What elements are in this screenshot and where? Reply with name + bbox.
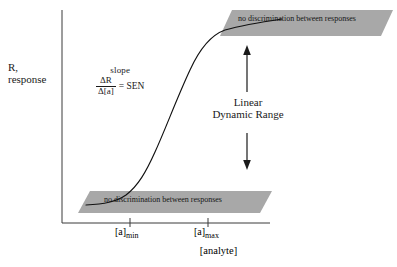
x-tick-label-a-max-base: [a] — [194, 226, 205, 237]
x-tick-label-a-max-sub: max — [205, 231, 219, 240]
slope-numerator: ΔR — [98, 76, 114, 86]
slope-equals-sen: = SEN — [119, 82, 145, 92]
slope-denominator: Δ[a] — [96, 86, 116, 97]
sensitivity-equation: ΔR Δ[a] = SEN — [96, 76, 144, 96]
x-tick-label-a-max: [a]max — [194, 226, 219, 237]
slope-fraction: ΔR Δ[a] — [96, 76, 116, 96]
y-axis-label: R, response — [8, 62, 47, 85]
linear-dynamic-range-label: Linear Dynamic Range — [204, 97, 292, 120]
ldr-label-line1: Linear — [204, 97, 292, 109]
slope-annotation: slope ΔR Δ[a] = SEN — [96, 66, 144, 97]
x-tick-label-a-min-sub: min — [126, 231, 138, 240]
upper-band-caption: no discrimination between responses — [238, 14, 356, 23]
x-tick-label-a-min: [a]min — [115, 226, 139, 237]
y-axis-label-line1: R, — [8, 62, 47, 74]
y-axis-label-line2: response — [8, 74, 47, 86]
lower-band-caption: no discrimination between responses — [104, 195, 222, 204]
x-axis-label: [analyte] — [0, 245, 397, 256]
x-tick-label-a-min-base: [a] — [115, 226, 126, 237]
slope-caption: slope — [96, 66, 144, 75]
ldr-label-line2: Dynamic Range — [204, 109, 292, 121]
calibration-curve-figure: R, response slope ΔR Δ[a] = SEN Linear D… — [0, 0, 397, 267]
